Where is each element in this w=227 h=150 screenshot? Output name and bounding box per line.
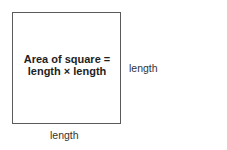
area-formula: Area of square = length × length [12,54,122,77]
side-label-bottom: length [50,129,79,141]
formula-line-1: Area of square = [12,54,122,66]
formula-line-2: length × length [12,66,122,78]
side-label-right: length [129,62,158,74]
